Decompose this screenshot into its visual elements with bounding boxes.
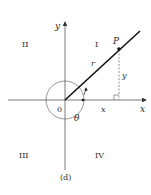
x-component-label: x (101, 105, 106, 114)
angle-start-dot (82, 99, 85, 102)
figure-caption: (d) (60, 173, 71, 182)
polar-coordinate-diagram: y x 0 II I III IV P r y x θ (d) (0, 0, 151, 195)
point-p (117, 47, 121, 51)
theta-label: θ (74, 113, 80, 123)
quadrant-label-iv: IV (95, 151, 104, 160)
y-component-label: y (121, 71, 127, 80)
radius-label: r (91, 59, 96, 68)
quadrant-label-i: I (95, 40, 98, 49)
point-p-label: P (112, 36, 120, 46)
quadrant-label-ii: II (22, 40, 28, 49)
radius-line (65, 31, 140, 100)
origin-label: 0 (57, 105, 62, 114)
quadrant-label-iii: III (19, 151, 28, 160)
right-angle-marker (114, 95, 119, 100)
y-axis-label: y (54, 21, 61, 31)
x-axis-label: x (140, 104, 145, 114)
angle-arrow-icon (84, 88, 86, 95)
